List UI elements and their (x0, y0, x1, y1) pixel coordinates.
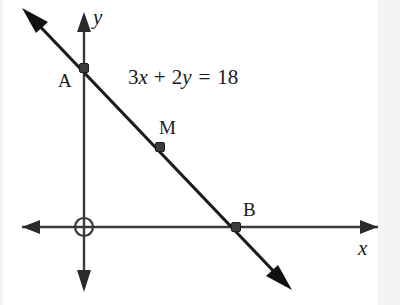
right-edge-seam (378, 0, 400, 305)
x-axis-label: x (357, 236, 368, 260)
figure-container: A M B y x 3x+2y=18 (0, 0, 400, 305)
equation-coef-y: 2 (172, 65, 183, 89)
point-a-marker (80, 64, 89, 73)
left-edge-seam (0, 0, 3, 305)
equation-var-y: y (180, 65, 192, 89)
point-a-label: A (58, 70, 72, 91)
y-axis-label: y (91, 5, 103, 29)
equation-var-x: x (138, 65, 149, 89)
equation-operator: + (154, 65, 166, 89)
point-m-marker (156, 143, 165, 152)
equation-equals: = (199, 65, 211, 89)
equation-label: 3x+2y=18 (128, 65, 238, 89)
equation-constant: 18 (217, 65, 238, 89)
point-b-label: B (243, 199, 256, 220)
equation-text: 3x+2y=18 (128, 65, 238, 89)
point-m-label: M (159, 117, 176, 138)
point-b-marker (232, 223, 241, 232)
equation-coef-x: 3 (128, 65, 139, 89)
coordinate-plane-graph: A M B y x 3x+2y=18 (0, 0, 400, 305)
